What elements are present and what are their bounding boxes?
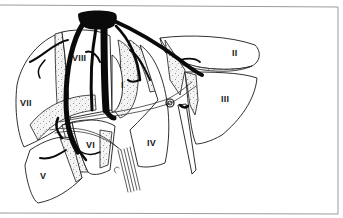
segment-label-i: I [121, 80, 124, 90]
segment-label-iv: IV [147, 138, 156, 148]
liver-segments-diagram: VIII I II III VII IV VI V [0, 0, 343, 218]
segment-label-viii: VIII [72, 53, 86, 63]
segment-label-vii: VII [20, 98, 32, 108]
segment-label-iii: III [221, 94, 229, 104]
segment-label-ii: II [232, 48, 237, 58]
segment-label-vi: V [40, 171, 46, 181]
segment-iii-shape [185, 72, 257, 144]
segment-label-v: VI [86, 140, 95, 150]
